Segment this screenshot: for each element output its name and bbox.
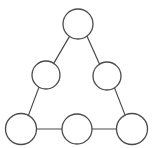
graph-canvas bbox=[0, 0, 155, 148]
graph-node[interactable] bbox=[117, 114, 148, 145]
graph-node[interactable] bbox=[62, 114, 92, 144]
nodes-layer bbox=[6, 9, 148, 145]
graph-node[interactable] bbox=[63, 9, 93, 39]
graph-edge bbox=[115, 88, 126, 115]
graph-node[interactable] bbox=[32, 61, 60, 89]
node-circle[interactable] bbox=[32, 61, 60, 89]
graph-edge bbox=[54, 36, 70, 63]
node-circle[interactable] bbox=[6, 114, 37, 145]
node-circle[interactable] bbox=[93, 62, 121, 90]
node-circle[interactable] bbox=[62, 114, 92, 144]
graph-edge bbox=[87, 36, 100, 64]
graph-node[interactable] bbox=[6, 114, 37, 145]
node-circle[interactable] bbox=[117, 114, 148, 145]
node-circle[interactable] bbox=[63, 9, 93, 39]
graph-diagram bbox=[0, 0, 155, 148]
graph-edge bbox=[28, 87, 39, 115]
graph-node[interactable] bbox=[93, 62, 121, 90]
